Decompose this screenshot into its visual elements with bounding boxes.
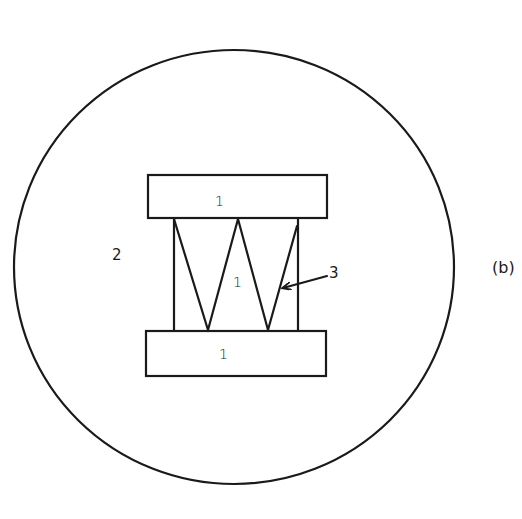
label-middle-region-1: 1 <box>233 275 242 289</box>
figure-caption: (b) <box>492 260 515 276</box>
label-top-block-1: 1 <box>215 194 224 208</box>
leader-arrow <box>283 276 327 288</box>
label-bottom-block-1: 1 <box>219 347 228 361</box>
outer-circle-region-2 <box>14 50 454 484</box>
top-block <box>148 175 327 218</box>
bottom-block <box>146 331 326 376</box>
label-zigzag-3: 3 <box>329 266 339 281</box>
diagram-canvas <box>0 0 522 519</box>
label-region-2: 2 <box>112 248 122 263</box>
